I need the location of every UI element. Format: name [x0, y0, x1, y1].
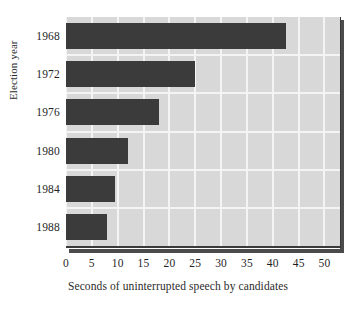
y-tick-label-1988: 1988 [22, 221, 60, 233]
plot-axis-line-x [66, 246, 341, 248]
bar-1976 [66, 99, 159, 125]
bar-1984 [66, 176, 115, 202]
bar-1968 [66, 23, 286, 49]
y-gridline [66, 207, 340, 209]
y-tick-label-1984: 1984 [22, 183, 60, 195]
bar-chart-figure: Election year 196819721976198019841988 0… [0, 0, 356, 309]
x-axis-tick-labels: 05101520253035404550 [66, 257, 346, 273]
bar-1972 [66, 61, 195, 87]
y-tick-label-1980: 1980 [22, 145, 60, 157]
y-gridline [66, 131, 340, 133]
y-tick-label-1972: 1972 [22, 68, 60, 80]
y-gridline [66, 92, 340, 94]
y-gridline [66, 54, 340, 56]
y-axis-tick-labels: 196819721976198019841988 [22, 17, 64, 249]
bar-1988 [66, 214, 107, 240]
y-tick-label-1976: 1976 [22, 106, 60, 118]
plot-area [66, 17, 340, 246]
y-tick-label-1968: 1968 [22, 30, 60, 42]
x-axis-title: Seconds of uninterrupted speech by candi… [0, 280, 356, 292]
x-tick-label-50: 50 [309, 257, 339, 269]
plot-shadow-bottom [69, 249, 344, 253]
y-gridline [66, 169, 340, 171]
bar-1980 [66, 138, 128, 164]
